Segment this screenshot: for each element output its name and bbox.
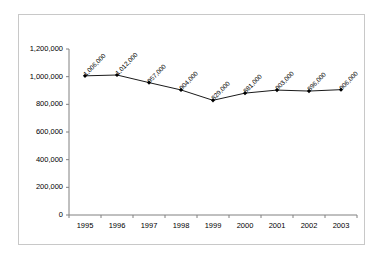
axis-lines [69,49,357,215]
y-axis-tick-label: 400,000 [19,156,63,164]
x-axis-tick-label: 2001 [269,222,286,230]
x-axis-tick-label: 2000 [237,222,254,230]
x-axis-tick-label: 1995 [77,222,94,230]
x-axis-tick-label: 1997 [141,222,158,230]
chart-frame: 0200,000400,000600,000800,0001,000,0001,… [18,14,365,245]
x-axis-tick-label: 1998 [173,222,190,230]
line-chart-plot [19,15,364,244]
y-axis-tick-label: 1,000,000 [19,73,63,81]
x-axis-tick-label: 2002 [301,222,318,230]
x-axis-tick-label: 1999 [205,222,222,230]
y-axis-tick-label: 200,000 [19,184,63,192]
x-axis-tick-label: 2003 [333,222,350,230]
y-axis-tick-label: 800,000 [19,101,63,109]
x-axis-tick-label: 1996 [109,222,126,230]
y-axis-tick-label: 1,200,000 [19,45,63,53]
y-axis-tick-label: 600,000 [19,128,63,136]
y-axis-tick-label: 0 [19,211,63,219]
